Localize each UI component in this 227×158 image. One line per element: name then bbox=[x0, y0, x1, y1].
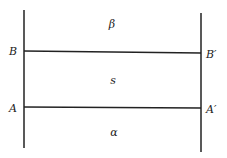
phase-boundary-diagram: β s α B B′ A A′ bbox=[0, 0, 227, 158]
point-label-B-prime: B′ bbox=[205, 48, 217, 61]
boundary-line-AA bbox=[24, 107, 201, 108]
point-label-A-prime: A′ bbox=[205, 103, 217, 116]
boundary-line-BB bbox=[24, 51, 201, 53]
point-label-A: A bbox=[8, 102, 17, 115]
region-label-beta: β bbox=[108, 18, 115, 31]
region-label-alpha: α bbox=[110, 126, 118, 139]
region-label-s: s bbox=[110, 74, 116, 87]
point-label-B: B bbox=[8, 45, 17, 58]
